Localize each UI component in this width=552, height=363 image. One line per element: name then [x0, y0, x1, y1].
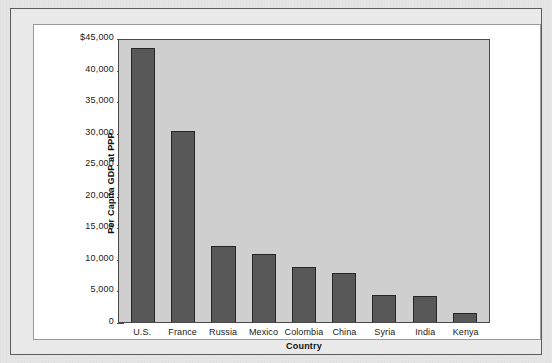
bar-slot [163, 40, 203, 322]
bar-india [413, 296, 437, 322]
bar-slot [284, 40, 324, 322]
plot-area [118, 39, 490, 323]
y-axis-tick-label: 40,000 [85, 64, 114, 74]
y-axis-tick-label: 10,000 [85, 253, 114, 263]
y-axis-tick-label: 5,000 [90, 284, 114, 294]
x-axis-tick-label: Kenya [446, 327, 486, 337]
bar-slot [445, 40, 485, 322]
x-axis-tick-label: Mexico [243, 327, 283, 337]
x-axis-tick-label: Colombia [284, 327, 324, 337]
y-axis-tick-label: 15,000 [85, 221, 114, 231]
y-axis-tick-mark [117, 323, 124, 324]
x-axis-tick-label: U.S. [122, 327, 162, 337]
y-axis-tick-label: $45,000 [80, 32, 114, 42]
x-axis-tick-labels: U.S.FranceRussiaMexicoColombiaChinaSyria… [118, 327, 490, 337]
x-axis-tick-label: France [162, 327, 202, 337]
y-axis-tick-label: 0 [109, 316, 114, 326]
bar-colombia [292, 267, 316, 322]
bar-series [119, 40, 489, 322]
bar-russia [211, 246, 235, 322]
bar-u-s [131, 48, 155, 322]
bar-mexico [252, 254, 276, 322]
y-axis-title: Per Capita GDP at PPP [106, 132, 116, 234]
y-axis-tick-label: 20,000 [85, 190, 114, 200]
x-axis-tick-label: China [324, 327, 364, 337]
x-axis-title: Country [118, 341, 490, 351]
bar-slot [405, 40, 445, 322]
x-axis-tick-label: Russia [203, 327, 243, 337]
y-axis-tick-label: 25,000 [85, 158, 114, 168]
bar-slot [244, 40, 284, 322]
x-axis-tick-label: India [405, 327, 445, 337]
figure-inner-plate: Per Capita GDP at PPP 05,00010,00015,000… [33, 24, 541, 340]
x-axis-tick-label: Syria [365, 327, 405, 337]
figure-outer-frame: Per Capita GDP at PPP 05,00010,00015,000… [10, 8, 542, 355]
bar-syria [372, 295, 396, 322]
bar-china [332, 273, 356, 322]
bar-slot [203, 40, 243, 322]
bar-chart: Per Capita GDP at PPP 05,00010,00015,000… [34, 25, 542, 341]
bar-slot [324, 40, 364, 322]
bar-slot [364, 40, 404, 322]
y-axis-tick-label: 35,000 [85, 95, 114, 105]
bar-kenya [453, 313, 477, 322]
y-axis-tick-label: 30,000 [85, 127, 114, 137]
scanned-page: Per Capita GDP at PPP 05,00010,00015,000… [0, 0, 552, 363]
bar-slot [123, 40, 163, 322]
bar-france [171, 131, 195, 322]
